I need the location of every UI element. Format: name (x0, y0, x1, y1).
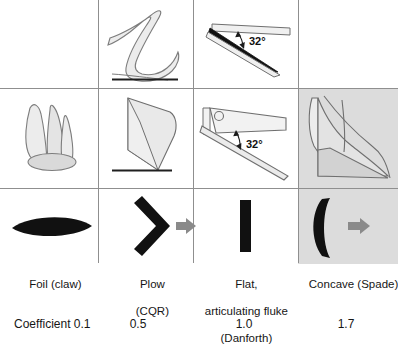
caption-foil: Foil (claw) (0, 264, 98, 305)
plow-anchor-front-view (112, 98, 176, 171)
caption-plow-line2: (CQR) (136, 305, 169, 317)
caption-flat-line3: (Danforth) (221, 332, 273, 344)
profile-foil-lens (12, 217, 92, 236)
caption-flat: Flat, articulating fluke (Danforth) (180, 264, 300, 348)
caption-concave: Concave (Spade) (296, 264, 398, 305)
coefficient-value-flat: 1.0 (224, 317, 264, 331)
angle-label-middle: 32° (246, 138, 263, 150)
danforth-top-view: 32° (206, 24, 290, 77)
danforth-articulating-view: 32° (200, 108, 288, 180)
caption-flat-line1: Flat, (235, 278, 257, 290)
profile-plow-chevron (134, 196, 170, 256)
caption-flat-line2: articulating fluke (205, 305, 288, 317)
coefficient-value-concave: 1.7 (326, 317, 366, 331)
profile-flat-bar (240, 200, 251, 252)
coefficient-value-plow: 0.5 (118, 317, 158, 331)
caption-plow-line1: Plow (140, 278, 165, 290)
claw-anchor-view (26, 105, 76, 171)
plow-anchor-side-view (108, 11, 179, 81)
caption-foil-line1: Foil (claw) (29, 278, 81, 290)
caption-concave-line1: Concave (Spade) (309, 278, 398, 290)
angle-label-top: 32° (249, 35, 266, 47)
